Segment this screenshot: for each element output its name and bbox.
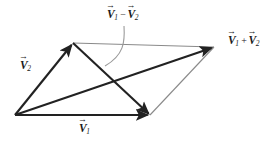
diff-subscript-2: 2 <box>135 13 139 22</box>
vector-arrow-icon: → <box>126 3 135 8</box>
sum-symbol-2: →V <box>248 35 256 47</box>
vector-arrows <box>15 43 212 115</box>
vector-arrow-icon: → <box>247 29 256 34</box>
v1-subscript: 1 <box>86 127 90 136</box>
diff-operator: − <box>119 9 128 20</box>
label-vector-difference: →V1−→V2 <box>107 9 139 21</box>
vector-diagram-canvas <box>0 0 267 150</box>
vector-difference-arrow <box>73 43 149 114</box>
vector-arrow-icon: → <box>19 54 28 59</box>
v2-subscript: 2 <box>27 64 31 73</box>
sum-subscript-1: 1 <box>235 39 239 48</box>
sum-subscript-2: 2 <box>256 39 260 48</box>
label-vector-v2: →V2 <box>20 60 32 72</box>
guide-top-edge <box>73 43 214 47</box>
vector-arrow-icon: → <box>106 3 115 8</box>
diff-subscript-1: 1 <box>114 13 118 22</box>
vector-arrow-icon: → <box>227 29 236 34</box>
label-vector-v1: →V1 <box>79 123 91 135</box>
vector-diagram-figure: →V1+→V2 →V1−→V2 →V2 →V1 <box>0 0 267 150</box>
sum-operator: + <box>240 35 249 46</box>
diff-symbol-2: →V <box>127 9 135 21</box>
label-vector-sum: →V1+→V2 <box>228 35 260 47</box>
vector-arrow-icon: → <box>78 117 87 122</box>
difference-leader-line <box>105 26 124 66</box>
